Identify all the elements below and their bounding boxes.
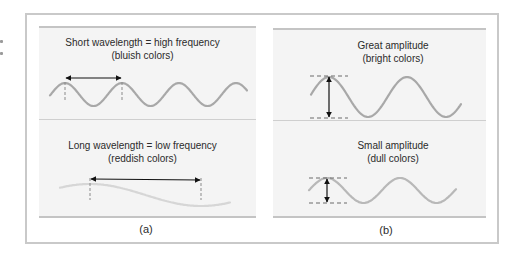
caption-subtitle: (dull colors) (303, 153, 483, 166)
panel-top-rule (273, 28, 486, 30)
panel-divider (273, 120, 486, 121)
great-amplitude-caption: Great amplitude (bright colors) (303, 40, 483, 65)
small-amplitude-caption: Small amplitude (dull colors) (303, 140, 483, 165)
panel-a-label: (a) (126, 223, 166, 235)
short-wavelength-caption: Short wavelength = high frequency (bluis… (39, 37, 246, 62)
caption-title: Long wavelength = low frequency (39, 140, 246, 153)
caption-title: Small amplitude (303, 140, 483, 153)
panel-top-rule (39, 26, 256, 28)
panel-divider (39, 119, 256, 120)
panel-b-label: (b) (366, 224, 406, 236)
caption-subtitle: (bright colors) (303, 53, 483, 66)
caption-title: Short wavelength = high frequency (39, 37, 246, 50)
panel-bottom-rule (273, 216, 486, 218)
panel-bottom-rule (39, 216, 256, 218)
cropped-text-fragment (0, 52, 3, 55)
caption-title: Great amplitude (303, 40, 483, 53)
caption-subtitle: (reddish colors) (39, 153, 246, 166)
long-wavelength-caption: Long wavelength = low frequency (reddish… (39, 140, 246, 165)
caption-subtitle: (bluish colors) (39, 50, 246, 63)
cropped-text-fragment (0, 40, 3, 43)
